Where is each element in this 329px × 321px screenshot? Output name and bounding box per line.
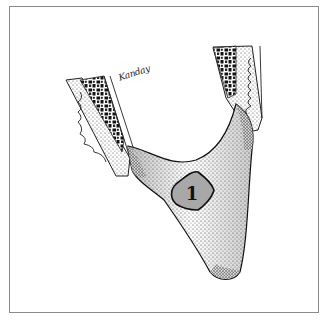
region-label-number: 1: [177, 183, 207, 204]
dental-illustration: [0, 0, 329, 321]
left-tooth: [66, 76, 134, 176]
